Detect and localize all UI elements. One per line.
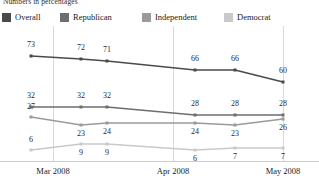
legend-swatch-democrat [224,13,233,22]
x-tick-may: May 2008 [266,166,301,176]
data-point-marker[interactable] [194,114,197,117]
data-point-marker[interactable] [30,116,33,119]
data-point-marker[interactable] [80,124,83,127]
data-point-marker[interactable] [194,122,197,125]
series-line-independent [31,117,283,125]
data-label-democrat: 7 [281,153,285,161]
data-point-marker[interactable] [234,124,237,127]
chart-legend: Overall Republican Independent Democrat [2,11,317,24]
legend-swatch-independent [142,13,151,22]
data-point-marker[interactable] [106,60,109,63]
data-label-democrat: 6 [193,155,197,163]
data-point-marker[interactable] [106,122,109,125]
series-line-democrat [31,144,283,150]
legend-item-overall[interactable]: Overall [2,11,41,24]
legend-label-overall: Overall [15,13,41,22]
data-label-independent: 24 [103,128,111,136]
series-line-republican [31,107,283,115]
data-label-democrat: 7 [233,153,237,161]
data-point-marker[interactable] [282,147,285,150]
data-point-marker[interactable] [80,58,83,61]
data-label-republican: 28 [231,100,239,108]
data-label-overall: 66 [231,55,239,63]
legend-label-independent: Independent [155,13,197,22]
data-point-marker[interactable] [80,106,83,109]
data-label-democrat: 6 [29,136,33,144]
legend-item-democrat[interactable]: Democrat [224,11,271,24]
data-label-overall: 66 [191,55,199,63]
data-label-overall: 73 [27,41,35,49]
data-label-democrat: 9 [105,149,109,157]
data-label-independent: 26 [279,124,287,132]
chart-note: Numbers in percentages [3,0,78,6]
data-point-marker[interactable] [282,81,285,84]
x-tick-apr: Apr 2008 [157,166,189,176]
data-label-democrat: 9 [79,149,83,157]
data-label-republican: 28 [279,100,287,108]
series-line-overall [31,56,283,82]
data-point-marker[interactable] [106,143,109,146]
data-label-republican: 32 [27,92,35,100]
legend-item-independent[interactable]: Independent [142,11,197,24]
data-label-republican: 32 [103,92,111,100]
data-point-marker[interactable] [80,143,83,146]
chart-container: Numbers in percentages Overall Republica… [0,0,319,187]
plot-area: 7372716666603232322828282723242423266996… [0,26,319,162]
data-label-independent: 27 [27,103,35,111]
data-point-marker[interactable] [234,69,237,72]
x-axis-labels: Mar 2008 Apr 2008 May 2008 [0,166,319,184]
data-label-overall: 60 [279,67,287,75]
legend-swatch-overall [2,13,11,22]
data-point-marker[interactable] [282,114,285,117]
data-point-marker[interactable] [30,55,33,58]
data-label-independent: 24 [191,128,199,136]
data-label-republican: 28 [191,100,199,108]
data-point-marker[interactable] [194,149,197,152]
data-label-republican: 32 [77,92,85,100]
data-point-marker[interactable] [282,118,285,121]
data-label-overall: 72 [77,44,85,52]
data-label-independent: 23 [77,130,85,138]
x-tick-mar: Mar 2008 [36,166,69,176]
series-lines [0,26,319,162]
legend-label-democrat: Democrat [237,13,271,22]
data-point-marker[interactable] [234,147,237,150]
data-point-marker[interactable] [106,106,109,109]
legend-item-republican[interactable]: Republican [60,11,112,24]
data-label-independent: 23 [231,130,239,138]
legend-swatch-republican [60,13,69,22]
data-point-marker[interactable] [194,69,197,72]
data-point-marker[interactable] [30,149,33,152]
legend-label-republican: Republican [73,13,112,22]
data-label-overall: 71 [103,46,111,54]
data-point-marker[interactable] [234,114,237,117]
